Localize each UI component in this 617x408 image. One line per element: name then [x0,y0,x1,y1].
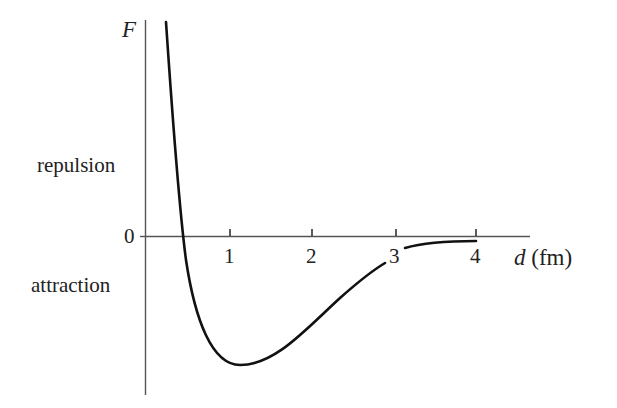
force-distance-chart [0,0,617,408]
force-curve-tail [405,241,476,248]
y-axis-label: F [122,18,136,41]
x-tick-label-3: 3 [389,246,400,267]
x-axis-variable: d [514,245,526,270]
x-axis-unit: (fm) [531,245,572,270]
x-tick-label-4: 4 [470,246,481,267]
x-axis-label: d (fm) [514,246,572,269]
zero-label: 0 [124,226,135,247]
force-curve [166,22,385,365]
x-ticks [230,229,476,236]
repulsion-label: repulsion [37,155,115,176]
x-tick-label-1: 1 [224,246,235,267]
attraction-label: attraction [31,275,110,296]
x-tick-label-2: 2 [306,246,317,267]
